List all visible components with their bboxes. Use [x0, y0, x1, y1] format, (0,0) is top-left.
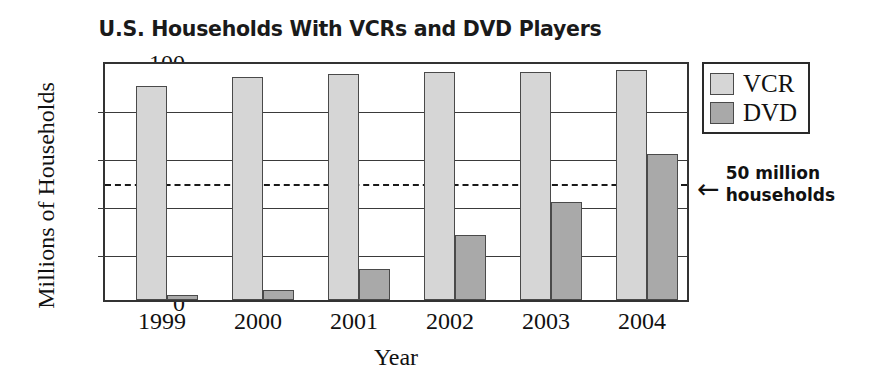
x-tick-label-2000: 2000: [210, 308, 306, 335]
legend-item-vcr: VCR: [710, 69, 797, 98]
bar-dvd-2004: [647, 154, 678, 300]
legend-label-vcr: VCR: [743, 71, 794, 96]
y-tick-mark-20: [98, 256, 105, 257]
threshold-annotation-line-1: 50 million: [726, 163, 835, 185]
chart-legend: VCR DVD: [702, 62, 810, 134]
x-tick-label-2004: 2004: [594, 308, 690, 335]
bar-vcr-2000: [232, 77, 263, 300]
gridline-20: [105, 256, 687, 257]
bar-vcr-1999: [136, 86, 167, 300]
threshold-annotation: ← 50 million households: [697, 163, 835, 207]
x-tick-label-2003: 2003: [498, 308, 594, 335]
bar-dvd-1999: [167, 295, 198, 300]
bar-vcr-2004: [616, 70, 647, 300]
bar-vcr-2002: [424, 72, 455, 300]
threshold-line-50-million: [105, 184, 687, 186]
bar-dvd-2002: [455, 235, 486, 300]
y-axis-title: Millions of Households: [33, 66, 60, 326]
x-tick-label-2002: 2002: [402, 308, 498, 335]
y-tick-mark-40: [98, 208, 105, 209]
bar-vcr-2003: [520, 72, 551, 300]
y-tick-mark-80: [98, 112, 105, 113]
x-tick-label-2001: 2001: [306, 308, 402, 335]
gridline-60: [105, 160, 687, 161]
threshold-annotation-line-2: households: [726, 185, 835, 207]
bar-vcr-2001: [328, 74, 359, 300]
bar-chart-figure: U.S. Households With VCRs and DVD Player…: [0, 0, 876, 387]
left-arrow-icon: ←: [697, 175, 720, 202]
plot-area: [103, 62, 689, 302]
gridline-40: [105, 208, 687, 209]
threshold-annotation-text: 50 million households: [726, 163, 835, 207]
gridline-80: [105, 112, 687, 113]
y-tick-mark-60: [98, 160, 105, 161]
bar-dvd-2003: [551, 202, 582, 300]
chart-title: U.S. Households With VCRs and DVD Player…: [0, 17, 700, 41]
legend-label-dvd: DVD: [743, 100, 797, 125]
bar-dvd-2000: [263, 290, 294, 300]
legend-swatch-dvd: [710, 102, 734, 124]
legend-swatch-vcr: [710, 73, 734, 95]
x-axis-title: Year: [103, 344, 689, 371]
x-tick-label-1999: 1999: [114, 308, 210, 335]
bar-dvd-2001: [359, 269, 390, 300]
legend-item-dvd: DVD: [710, 98, 797, 127]
